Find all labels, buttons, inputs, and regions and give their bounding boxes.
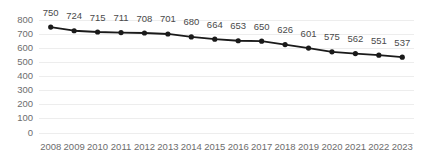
y-axis-tick-labels: 8007006005004003002001000 (17, 14, 33, 138)
x-axis-tick-label: 2022 (368, 141, 389, 152)
data-point-label: 537 (394, 37, 410, 48)
data-point-label: 701 (160, 13, 176, 24)
data-point-label: 724 (66, 10, 82, 21)
y-axis-tick-label: 200 (17, 98, 33, 109)
x-axis-tick-label: 2015 (204, 141, 225, 152)
x-axis-tick-label: 2013 (157, 141, 178, 152)
x-axis-tick-label: 2016 (228, 141, 249, 152)
x-axis-tick-label: 2008 (40, 141, 61, 152)
data-point-marker (306, 46, 311, 51)
data-point-label: 715 (90, 12, 106, 23)
data-point-marker (118, 30, 123, 35)
x-axis-tick-label: 2010 (87, 141, 108, 152)
data-point-marker (282, 42, 287, 47)
data-point-marker (329, 49, 334, 54)
data-point-marker (189, 34, 194, 39)
x-axis-tick-label: 2020 (321, 141, 342, 152)
data-point-marker (142, 30, 147, 35)
data-point-marker (95, 29, 100, 34)
data-point-marker (165, 31, 170, 36)
data-point-label: 711 (113, 12, 128, 23)
data-point-marker (400, 55, 405, 60)
x-axis-tick-label: 2021 (345, 141, 366, 152)
y-axis-tick-label: 100 (17, 112, 33, 123)
x-axis-tick-label: 2018 (275, 141, 296, 152)
data-point-label: 653 (230, 20, 246, 31)
data-point-label: 750 (43, 7, 59, 18)
y-axis-tick-label: 0 (28, 127, 33, 138)
chart-canvas: 8007006005004003002001000 20082009201020… (0, 0, 424, 161)
x-axis-tick-label: 2019 (298, 141, 319, 152)
data-point-label: 664 (207, 19, 223, 30)
data-point-label: 626 (277, 24, 293, 35)
y-axis-tick-label: 300 (17, 84, 33, 95)
x-axis-tick-label: 2023 (392, 141, 413, 152)
y-axis-tick-label: 600 (17, 42, 33, 53)
data-point-marker (48, 24, 53, 29)
data-point-label: 562 (347, 33, 363, 44)
data-point-marker (259, 39, 264, 44)
y-axis-tick-label: 400 (17, 70, 33, 81)
data-point-label: 650 (254, 21, 270, 32)
data-point-marker (376, 53, 381, 58)
x-axis-tick-label: 2011 (111, 141, 131, 152)
x-axis-tick-label: 2014 (181, 141, 202, 152)
data-point-label: 680 (183, 16, 199, 27)
data-point-marker (212, 37, 217, 42)
line-chart: 8007006005004003002001000 20082009201020… (0, 0, 424, 161)
x-axis-tick-labels: 2008200920102011201220132014201520162017… (40, 141, 413, 152)
y-axis-tick-label: 500 (17, 56, 33, 67)
data-point-label: 575 (324, 31, 340, 42)
x-axis-tick-label: 2009 (64, 141, 85, 152)
data-point-label: 601 (301, 28, 317, 39)
data-point-marker (72, 28, 77, 33)
series-data-labels: 7507247157117087016806646536506266015755… (43, 7, 410, 48)
data-point-label: 708 (137, 13, 153, 24)
x-axis-tick-label: 2017 (251, 141, 272, 152)
x-axis-tick-label: 2012 (134, 141, 155, 152)
data-point-marker (236, 38, 241, 43)
data-point-marker (353, 51, 358, 56)
y-axis-tick-label: 800 (17, 14, 33, 25)
data-point-label: 551 (371, 35, 387, 46)
y-axis-tick-label: 700 (17, 28, 33, 39)
